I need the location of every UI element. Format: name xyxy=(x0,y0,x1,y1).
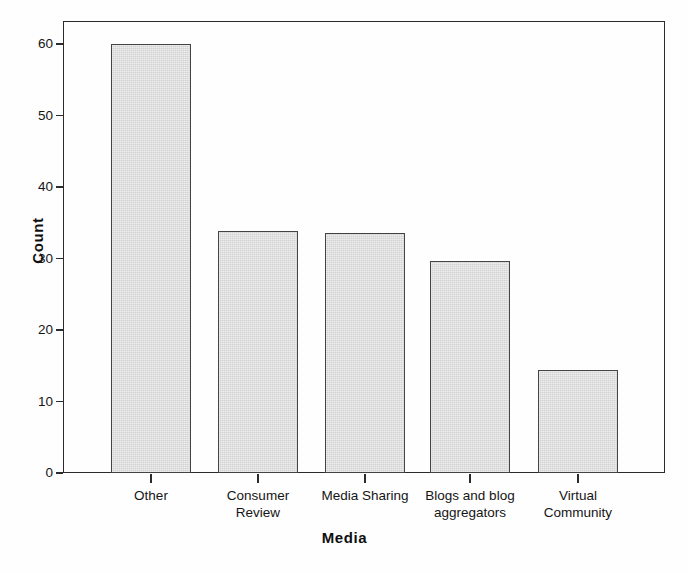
x-tick-mark xyxy=(150,474,151,483)
x-tick-mark xyxy=(577,474,578,483)
y-tick-label: 20 xyxy=(20,323,53,337)
bar xyxy=(430,261,510,473)
y-tick-mark xyxy=(56,401,63,402)
x-axis-title: Media xyxy=(0,529,689,546)
y-tick-label: 0 xyxy=(20,466,53,480)
bar xyxy=(111,44,191,473)
y-tick-label: 40 xyxy=(20,180,53,194)
plot-area xyxy=(64,22,664,473)
y-tick-label: 10 xyxy=(20,395,53,409)
y-tick-label: 30 xyxy=(20,252,53,266)
y-axis-title: Count xyxy=(29,191,46,291)
y-tick-label: 50 xyxy=(20,109,53,123)
y-tick-mark xyxy=(56,329,63,330)
y-tick-label: 60 xyxy=(20,37,53,51)
y-tick-mark xyxy=(56,43,63,44)
x-tick-mark xyxy=(364,474,365,483)
bar xyxy=(218,231,298,473)
bar xyxy=(538,370,618,473)
y-tick-mark xyxy=(56,472,63,473)
x-tick-mark xyxy=(469,474,470,483)
y-tick-mark xyxy=(56,115,63,116)
x-tick-mark xyxy=(257,474,258,483)
chart-figure: Count 6050403020100 OtherConsumer Review… xyxy=(0,0,689,572)
y-tick-mark xyxy=(56,258,63,259)
x-tick-label: Virtual Community xyxy=(503,487,653,521)
bar xyxy=(325,233,405,473)
y-tick-mark xyxy=(56,186,63,187)
